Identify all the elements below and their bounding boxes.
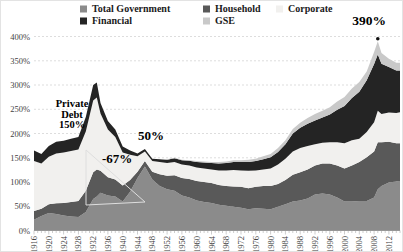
financial-swatch-icon — [80, 18, 87, 25]
x-axis-label: 1976 — [251, 236, 261, 252]
annotation-peak-value: 390% — [342, 13, 396, 29]
x-axis-label: 1960 — [192, 236, 202, 252]
x-axis-label: 1952 — [162, 236, 172, 252]
x-axis-label: 1944 — [133, 236, 143, 252]
x-axis-label: 1928 — [73, 236, 83, 252]
household-swatch-icon — [203, 6, 210, 13]
x-axis-label: 1940 — [118, 236, 128, 252]
legend-item-financial: Financial — [80, 15, 132, 26]
x-axis-label: 1932 — [88, 236, 98, 252]
legend-item-gse: GSE — [203, 15, 235, 26]
x-axis-label: 1996 — [325, 236, 335, 252]
legend-label: Financial — [92, 15, 132, 26]
x-axis-label: 2004 — [354, 236, 364, 252]
legend-label: GSE — [215, 15, 235, 26]
x-axis-label: 1968 — [221, 236, 231, 252]
annotation-decline-percent: -67% — [102, 151, 132, 167]
gse-swatch-icon — [203, 18, 210, 25]
x-axis-label: 1992 — [310, 236, 320, 252]
legend-label: Total Government — [92, 3, 170, 14]
x-axis-label: 2012 — [384, 236, 394, 252]
annotation-private-debt: Private Debt 150% — [41, 99, 103, 131]
x-axis-label: 1980 — [266, 236, 276, 252]
annotation-postwar-private-debt: 50% — [138, 128, 164, 144]
x-axis-label: 1924 — [59, 236, 69, 252]
legend-item-corporate: Corporate — [276, 3, 332, 14]
x-axis-label: 1988 — [295, 236, 305, 252]
legend-item-household: Household — [203, 3, 261, 14]
legend-label: Corporate — [288, 3, 332, 14]
x-axis-label: 1916 — [29, 236, 39, 252]
total-government-swatch-icon — [80, 6, 87, 13]
x-axis-label: 1964 — [207, 236, 217, 252]
x-axis-label: 1936 — [103, 236, 113, 252]
x-axis-label: 1956 — [177, 236, 187, 252]
total-us-debt-chart: 400%350%300%250%200%150%100%50%0% 191619… — [0, 0, 403, 252]
x-axis-label: 1984 — [280, 236, 290, 252]
x-axis-label: 2000 — [340, 236, 350, 252]
x-axis-label: 1972 — [236, 236, 246, 252]
legend-label: Household — [215, 3, 261, 14]
x-axis-label: 1920 — [44, 236, 54, 252]
legend-item-total-government: Total Government — [80, 3, 170, 14]
chart-legend: Total Government Household Corporate Fin… — [80, 3, 380, 27]
x-axis-label: 2008 — [369, 236, 379, 252]
corporate-swatch-icon — [276, 6, 283, 13]
x-axis-label: 1948 — [147, 236, 157, 252]
